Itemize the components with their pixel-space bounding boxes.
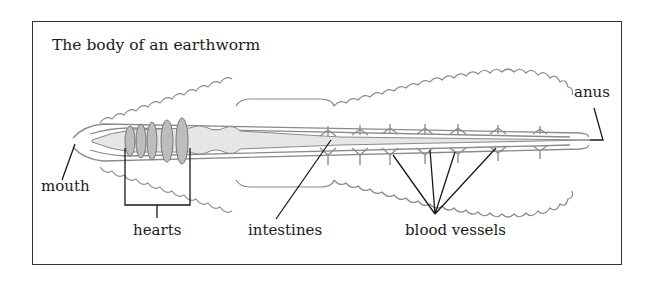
- vessels-leader: [393, 148, 496, 214]
- label-mouth: mouth: [41, 177, 90, 195]
- anus-leader: [590, 108, 603, 140]
- mouth-leader: [62, 144, 75, 180]
- label-anus: anus: [574, 83, 610, 101]
- label-intestines: intestines: [248, 221, 322, 239]
- label-blood-vessels: blood vessels: [405, 221, 506, 239]
- label-hearts: hearts: [133, 221, 181, 239]
- diagram-title: The body of an earthworm: [52, 36, 260, 54]
